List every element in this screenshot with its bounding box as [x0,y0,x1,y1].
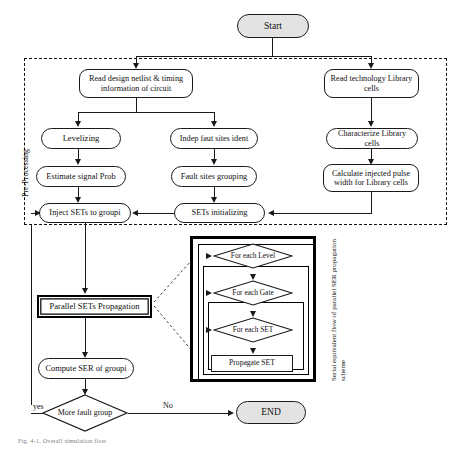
for-each-level-label: For each Level [213,243,293,269]
arrow-loopback-gate [206,290,212,296]
arrow-level-to-gate [250,274,256,280]
arrow-to-levelizing [75,121,81,127]
decision-more-fault-group[interactable]: More fault group [42,394,128,432]
node-read-netlist[interactable]: Read design netlist & timing information… [79,69,193,98]
node-sets-initializing[interactable]: SETs initializing [174,203,265,223]
arrow-inject-from-right [132,210,138,216]
arrow-to-fault-grouping [211,159,217,165]
inset-decision-for-each-gate[interactable]: For each Gate [213,280,293,306]
figure-caption: Fig. 4-1. Overall simulation flow [18,437,106,444]
arrow-to-parallel-propagation [82,288,88,294]
node-compute-ser[interactable]: Compute SER of groupi [38,358,134,379]
start-terminal[interactable]: Start [237,14,309,38]
arrow-set-to-propagate [250,348,256,354]
conn-parallel-down [85,318,86,353]
preprocessing-label: Pre-Processing [21,149,30,197]
node-levelizing[interactable]: Levelizing [41,128,121,149]
decision-yes-label: yes [33,402,44,411]
inset-decision-for-each-set[interactable]: For each SET [213,317,293,343]
conn-split-bar [136,56,372,57]
for-each-set-label: For each SET [213,317,293,343]
node-propagate-set[interactable]: Propagate SET [211,355,293,372]
conn-no-branch [128,413,230,414]
node-characterize[interactable]: Characterize Library cells [326,128,418,149]
node-calc-pulse-width[interactable]: Calculate injected pulse width for Libra… [323,164,419,192]
conn-calc-down [371,192,372,214]
inset-label: Serial equivalent flow of parallel SER p… [330,231,348,381]
conn-calc-to-init [273,213,372,214]
arrow-to-end [228,410,234,416]
arrow-to-estimate-prob [75,159,81,165]
node-inject-sets[interactable]: Inject SETs to groupi [39,203,131,223]
node-parallel-propagation[interactable]: Parallel SETs Propagation [37,295,152,318]
for-each-gate-label: For each Gate [213,280,293,306]
inset-decision-for-each-level[interactable]: For each Level [213,243,293,269]
arrow-to-characterize [368,121,374,127]
decision-label: More fault group [42,394,128,432]
node-estimate-prob[interactable]: Estimate signal Prob [36,166,126,187]
arrow-loopback-set [206,327,212,333]
node-indep-fault-sites[interactable]: Indep faut sites ident [170,128,258,149]
end-terminal[interactable]: END [236,401,306,424]
conn-init-to-inject [137,213,175,214]
arrow-gate-to-set [250,311,256,317]
figure-canvas: Pre-Processing Start Read design netlist… [0,0,469,455]
conn-start-down [272,38,273,56]
conn-netlist-down [136,98,137,112]
conn-inject-down [85,223,86,289]
conn-library-down [371,98,372,121]
lower-frame-left [31,225,32,405]
arrow-to-indep-fault [211,121,217,127]
conn-netlist-split-bar [78,112,215,113]
node-fault-grouping[interactable]: Fault sites grouping [171,166,257,187]
decision-no-label: No [163,401,173,410]
node-read-library[interactable]: Read technology Library cells [324,69,419,98]
arrow-init-from-right [268,210,274,216]
arrow-loopback-level [206,253,212,259]
